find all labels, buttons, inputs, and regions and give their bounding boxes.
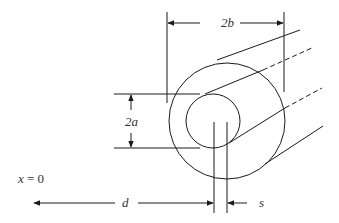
label-s: s bbox=[259, 195, 264, 210]
label-plane-x0: x = 0 bbox=[17, 171, 44, 186]
outer-bottom-tangent bbox=[265, 126, 323, 164]
inner-bottom-hidden bbox=[285, 88, 322, 108]
outer-top-tangent bbox=[217, 30, 300, 60]
coax-diagram: 2b 2a d s x = 0 bbox=[0, 0, 339, 223]
inner-top-tangent bbox=[205, 70, 263, 94]
label-2a: 2a bbox=[125, 114, 139, 129]
inner-bottom-tangent bbox=[229, 108, 285, 143]
inner-circle bbox=[186, 94, 240, 148]
label-d: d bbox=[122, 195, 129, 210]
label-2b: 2b bbox=[221, 15, 235, 30]
inner-top-hidden bbox=[263, 47, 314, 70]
